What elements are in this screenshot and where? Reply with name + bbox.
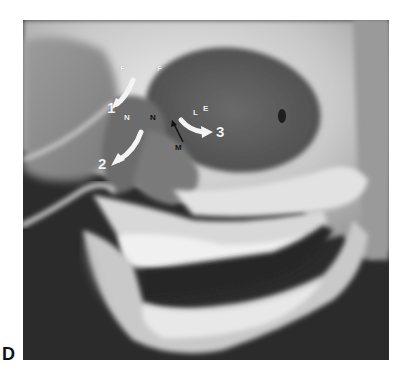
label-arrow-2: 2 <box>98 156 106 171</box>
label-m: M <box>175 144 182 152</box>
label-f-left: F <box>120 65 125 73</box>
label-e: E <box>203 105 208 113</box>
skull-photograph: F F 1 N N M L E 3 2 <box>23 20 389 360</box>
panel-letter: D <box>2 344 15 365</box>
figure-panel-d: F F 1 N N M L E 3 2 D <box>0 0 408 382</box>
label-n-left: N <box>124 114 130 122</box>
skull-illustration <box>23 20 389 360</box>
label-n-right: N <box>150 114 156 122</box>
label-l: L <box>193 109 198 117</box>
label-arrow-1: 1 <box>107 100 115 115</box>
label-arrow-3: 3 <box>216 124 224 139</box>
label-f-right: F <box>157 65 162 73</box>
